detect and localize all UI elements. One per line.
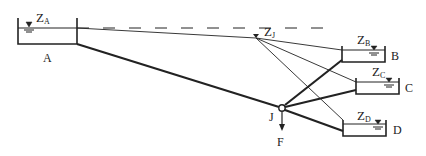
- reservoir-label-d: D: [393, 123, 402, 137]
- head-label-d: ZD: [357, 108, 371, 124]
- reservoir-b: ZB B: [342, 32, 399, 63]
- pipe-j-d: [285, 110, 343, 131]
- head-label-a: ZA: [36, 10, 50, 26]
- outflow-arrow-icon: [279, 124, 285, 131]
- outflow-label: F: [277, 135, 284, 149]
- hydraulic-grade-lines: [77, 28, 356, 120]
- junction-node-icon: [279, 105, 285, 111]
- junction-label: J: [269, 110, 274, 124]
- head-label-c: ZC: [372, 64, 385, 80]
- reservoir-label-c: C: [405, 81, 413, 95]
- reservoir-a: ZA A: [18, 10, 77, 65]
- reservoir-network-diagram: ZA A ZJ ZB B ZC C: [0, 0, 426, 156]
- junction-j: J F: [269, 105, 285, 149]
- water-surface-icon: [24, 22, 34, 32]
- hgl-j-to-d: [256, 38, 343, 120]
- head-label-b: ZB: [357, 32, 370, 48]
- pipe-a-j: [77, 44, 279, 107]
- reservoir-label-b: B: [391, 49, 399, 63]
- reservoir-c: ZC C: [356, 64, 413, 95]
- pipe-j-b: [285, 60, 342, 105]
- reservoir-label-a: A: [43, 51, 52, 65]
- reservoir-d: ZD D: [343, 108, 402, 137]
- water-level-icon: [253, 34, 259, 38]
- hgl-a-to-j: [77, 28, 256, 38]
- pipes: [77, 44, 356, 131]
- head-label-j: ZJ: [264, 24, 275, 40]
- pipe-j-c: [285, 90, 356, 107]
